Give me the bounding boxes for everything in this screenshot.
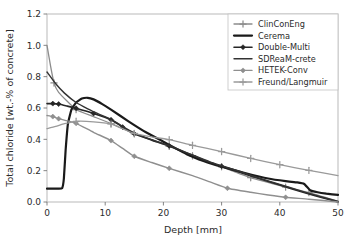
legend-label: Freund/Langmuir — [258, 77, 328, 87]
y-tick-label: 0.2 — [27, 166, 41, 176]
legend-label: Double-Multi — [258, 42, 310, 52]
x-tick-label: 10 — [99, 208, 111, 218]
y-tick-label: 0.8 — [27, 72, 42, 82]
x-tick-label: 20 — [158, 208, 170, 218]
y-tick-label: 0.0 — [27, 197, 42, 207]
x-tick-label: 40 — [274, 208, 286, 218]
y-tick-label: 0.4 — [27, 135, 42, 145]
x-tick-label: 30 — [216, 208, 228, 218]
y-tick-label: 1.2 — [27, 9, 41, 19]
y-axis-title: Total chloride [wt.-% of concrete] — [4, 29, 15, 187]
chart-figure: 01020304050 0.00.20.40.60.81.01.2 Depth … — [0, 0, 356, 239]
legend-label: SDReaM-crete — [258, 54, 316, 64]
chart-legend: ClinConEngCeremaDouble-MultiSDReaM-crete… — [228, 14, 338, 90]
legend-label: ClinConEng — [258, 19, 305, 29]
legend-label: Cerema — [258, 31, 290, 41]
y-tick-label: 1.0 — [27, 41, 42, 51]
y-tick-label: 0.6 — [27, 103, 42, 113]
x-axis-title: Depth [mm] — [164, 224, 222, 235]
line-chart: 01020304050 0.00.20.40.60.81.01.2 Depth … — [0, 0, 356, 239]
legend-label: HETEK-Conv — [258, 65, 308, 75]
x-tick-label: 50 — [332, 208, 344, 218]
x-tick-label: 0 — [44, 208, 50, 218]
